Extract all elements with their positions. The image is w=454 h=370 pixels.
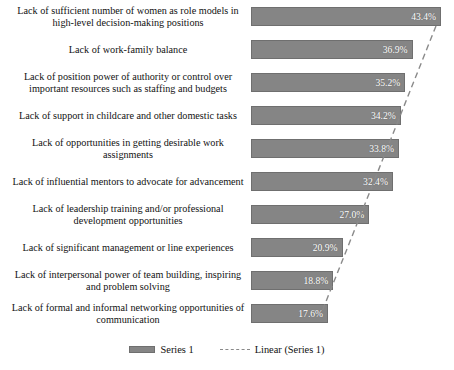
category-label-text: Lack of leadership training and/or profe… [8,203,248,226]
chart-row: Lack of position power of authority or c… [0,66,454,99]
legend-label-trendline: Linear (Series 1) [255,344,325,355]
bar-value-label: 33.8% [251,139,399,158]
category-label: Lack of opportunities in getting desirab… [8,132,248,165]
chart-row: Lack of work-family balance 36.9% [0,33,454,66]
bar-value-label: 43.4% [251,7,441,26]
bar-value-label: 35.2% [251,73,405,92]
chart-row: Lack of opportunities in getting desirab… [0,132,454,165]
chart-row: Lack of support in childcare and other d… [0,99,454,132]
category-label-text: Lack of formal and informal networking o… [8,302,248,325]
bar-value-label: 32.4% [251,172,393,191]
chart-row: Lack of sufficient number of women as ro… [0,0,454,33]
bar-value-label: 27.0% [251,205,369,224]
category-label: Lack of leadership training and/or profe… [8,198,248,231]
category-label-text: Lack of opportunities in getting desirab… [8,137,248,160]
bar-value-label: 34.2% [251,106,401,125]
category-label: Lack of sufficient number of women as ro… [8,0,248,33]
category-label-text: Lack of support in childcare and other d… [8,110,248,122]
dashed-line-icon [220,349,250,350]
category-label: Lack of formal and informal networking o… [8,297,248,330]
category-label: Lack of interpersonal power of team buil… [8,264,248,297]
plot-area: Lack of sufficient number of women as ro… [0,0,454,330]
category-label: Lack of significant management or line e… [8,231,248,264]
category-label: Lack of work-family balance [8,33,248,66]
chart-row: Lack of leadership training and/or profe… [0,198,454,231]
category-label-text: Lack of work-family balance [8,44,248,56]
chart-row: Lack of formal and informal networking o… [0,297,454,330]
bar-value-label: 17.6% [251,304,328,323]
chart-legend: Series 1 Linear (Series 1) [0,338,454,360]
bar-value-label: 36.9% [251,40,413,59]
category-label-text: Lack of sufficient number of women as ro… [8,5,248,28]
bar-chart: Lack of sufficient number of women as ro… [0,0,454,370]
legend-entry-trendline[interactable]: Linear (Series 1) [220,344,325,355]
category-label-text: Lack of interpersonal power of team buil… [8,269,248,292]
category-label: Lack of influential mentors to advocate … [8,165,248,198]
bar-value-label: 20.9% [251,238,343,257]
legend-label-series: Series 1 [160,344,193,355]
chart-row: Lack of interpersonal power of team buil… [0,264,454,297]
category-label-text: Lack of position power of authority or c… [8,71,248,94]
category-label: Lack of support in childcare and other d… [8,99,248,132]
legend-entry-series[interactable]: Series 1 [129,344,193,355]
category-label-text: Lack of influential mentors to advocate … [8,176,248,188]
category-label: Lack of position power of authority or c… [8,66,248,99]
bar-value-label: 18.8% [251,271,333,290]
bar-swatch-icon [129,346,155,353]
chart-row: Lack of influential mentors to advocate … [0,165,454,198]
category-label-text: Lack of significant management or line e… [8,242,248,254]
chart-row: Lack of significant management or line e… [0,231,454,264]
